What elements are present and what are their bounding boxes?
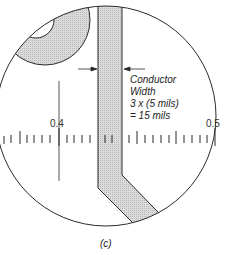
reticle-diagram [0,0,226,255]
scale-label-0-5: 0.5 [206,118,220,129]
annotation-line-3: 3 x (5 mils) [130,98,179,109]
scale-label-0-4: 0.4 [50,118,64,129]
conductor-trace [98,0,185,255]
annotation-line-4: = 15 mils [130,110,170,121]
figure-caption: (c) [100,238,112,249]
annotation-line-1: Conductor [130,74,176,85]
annotation-line-2: Width [130,86,155,97]
